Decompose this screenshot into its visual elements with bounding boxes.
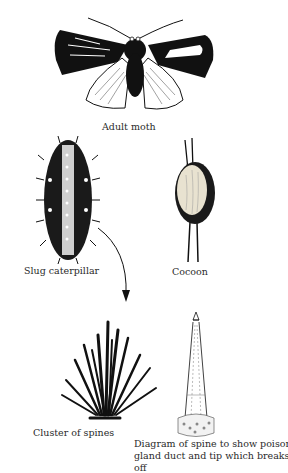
label-spine-diagram-line-1: Diagram of spine to show poison (134, 438, 288, 450)
curved-arrow-icon (98, 228, 130, 302)
label-adult-moth: Adult moth (102, 121, 156, 133)
label-cocoon: Cocoon (172, 266, 208, 278)
spine-diagram-illustration (178, 312, 214, 437)
cocoon-illustration (175, 138, 215, 262)
illustration-canvas (0, 0, 288, 473)
label-cluster-of-spines: Cluster of spines (33, 427, 114, 439)
label-spine-diagram-line-2: gland duct and tip which breaks (134, 450, 288, 462)
moth-illustration (55, 18, 214, 109)
label-spine-diagram: Diagram of spine to show poison gland du… (134, 438, 288, 473)
label-spine-diagram-line-3: off (134, 462, 288, 473)
spines-illustration (62, 322, 156, 418)
caterpillar-illustration (36, 136, 100, 264)
label-slug-caterpillar: Slug caterpillar (24, 265, 99, 277)
